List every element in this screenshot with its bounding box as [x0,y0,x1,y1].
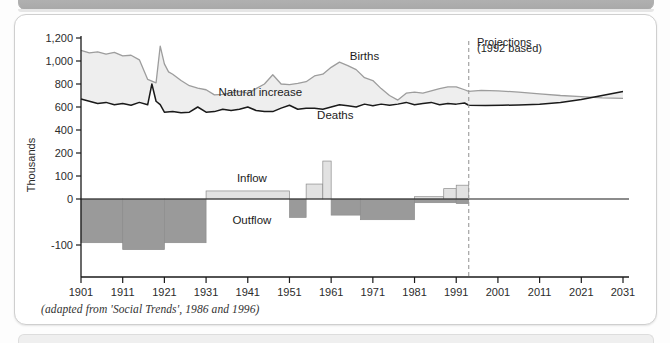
y-tick-label: 0 [67,193,73,205]
chart-plot-area: 1,2001,0008006004002001000-1001901191119… [15,15,658,326]
outflow-bars [81,199,469,250]
x-tick-label: 1921 [152,286,176,298]
y-tick-label: 100 [55,170,73,182]
births-label: Births [350,50,380,62]
bar-segment [81,199,123,243]
page-root: 1,2001,0008006004002001000-1001901191119… [0,0,670,343]
figure-caption: (adapted from 'Social Trends', 1986 and … [41,303,259,315]
x-tick-label: 2001 [486,286,510,298]
deaths-label: Deaths [317,109,354,121]
outflow-label: Outflow [232,214,272,226]
page-footer-strip [18,334,654,343]
y-tick-label: 400 [55,124,73,136]
bar-segment [444,189,457,199]
inflow-label: Inflow [237,172,268,184]
x-tick-label: 2031 [611,286,635,298]
x-tick-label: 2011 [528,286,552,298]
bar-segment [456,185,469,199]
bar-segment [289,199,306,217]
bar-segment [331,199,360,215]
natural-increase-label: Natural increase [218,86,302,98]
bar-segment [123,199,165,250]
x-tick-label: 1941 [236,286,260,298]
x-tick-label: 1981 [402,286,426,298]
x-tick-label: 1991 [444,286,468,298]
bar-segment [456,199,469,204]
page-header-strip-shadow [18,9,654,12]
bar-segment [306,184,323,199]
bar-segment [360,199,414,220]
x-tick-label: 1931 [194,286,218,298]
x-tick-label: 1951 [277,286,301,298]
y-tick-label: 1,000 [45,55,73,67]
x-axis-ticks: 1901191119211931194119511961197119811991… [69,277,635,298]
bar-segment [415,199,457,203]
y-tick-label: 200 [55,147,73,159]
y-axis-ticks: 1,2001,0008006004002001000-100 [45,32,81,251]
bar-segment [164,199,206,243]
bar-segment [206,191,289,199]
x-tick-label: 1961 [319,286,343,298]
x-tick-label: 1911 [111,286,135,298]
y-tick-label: 1,200 [45,32,73,44]
y-tick-label: 600 [55,101,73,113]
projections-basis-label: (1992 based) [477,42,542,54]
y-tick-label: -100 [51,239,73,251]
bar-segment [323,161,331,199]
figure-panel: 1,2001,0008006004002001000-1001901191119… [14,14,657,325]
x-tick-label: 2021 [569,286,593,298]
x-tick-label: 1971 [361,286,385,298]
x-tick-label: 1901 [69,286,93,298]
population-chart: 1,2001,0008006004002001000-1001901191119… [15,15,658,326]
y-tick-label: 800 [55,78,73,90]
y-axis-title: Thousands [25,137,37,192]
